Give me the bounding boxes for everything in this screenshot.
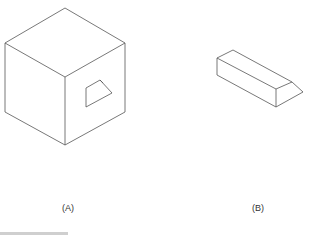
cube-right-face bbox=[65, 43, 125, 145]
bar-bevel bbox=[276, 82, 303, 107]
label-a: (A) bbox=[62, 203, 74, 213]
label-b: (B) bbox=[252, 203, 264, 213]
cube-window-edge bbox=[100, 80, 103, 83]
bar-top-face bbox=[217, 50, 292, 89]
diagram-canvas bbox=[0, 0, 318, 236]
cube-top-face bbox=[5, 8, 125, 77]
cube-left-face bbox=[5, 43, 65, 145]
bottom-divider bbox=[0, 232, 68, 235]
bar-b bbox=[217, 50, 303, 107]
cube-a bbox=[5, 8, 125, 145]
bar-front-face bbox=[217, 58, 276, 107]
cube-window bbox=[86, 80, 112, 107]
